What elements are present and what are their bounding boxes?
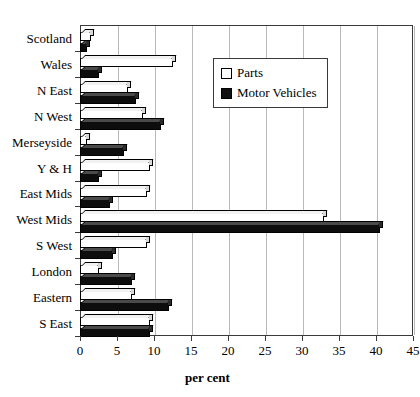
legend-item-parts: Parts [221,65,317,81]
y-axis-category-label: Eastern [0,291,76,304]
chart-legend: Parts Motor Vehicles [213,58,328,108]
x-axis-tick [117,336,118,341]
x-axis-tick [339,336,340,341]
bar-top-face [81,221,383,225]
x-axis-tick [80,336,81,341]
bar-right-face [131,273,135,280]
bar-top-face [81,92,139,96]
x-axis-tick [191,336,192,341]
x-axis-tick [154,336,155,341]
bar-right-face [168,299,172,306]
filled-square-swatch-icon [221,88,232,99]
y-axis-category-label: S West [0,239,76,252]
bar-top-face [81,144,128,148]
bar-top-face [81,288,135,292]
bar [80,302,169,311]
y-axis-category-label: Scotland [0,32,76,45]
bar-right-face [127,81,131,88]
bar-right-face [142,107,146,114]
x-axis-tick-label: 15 [185,343,198,359]
bar [80,147,124,156]
legend-item-motor-vehicles: Motor Vehicles [221,85,317,101]
x-axis-tick [413,336,414,341]
bar-top-face [81,236,150,240]
x-axis-tick-label: 35 [333,343,346,359]
y-axis-category-label: London [0,265,76,278]
bar-top-face [81,107,146,111]
bar-top-face [81,55,176,59]
bar-right-face [379,221,383,228]
bar-right-face [149,314,153,321]
y-axis-category-label: East Mids [0,187,76,200]
bar-right-face [160,118,164,125]
open-square-swatch-icon [221,68,232,79]
bar-right-face [98,66,102,73]
bar-right-face [149,159,153,166]
bar [80,276,132,285]
bar-right-face [86,133,90,140]
bar [80,224,380,233]
bar [80,121,161,130]
bar-top-face [81,185,150,189]
chart-title [0,0,415,1]
x-axis-tick-label: 0 [77,343,84,359]
bar [80,43,87,52]
y-axis-category-label: West Mids [0,213,76,226]
x-axis-tick [376,336,377,341]
bar-top-face [81,118,165,122]
y-axis-labels: ScotlandWalesN EastN WestMerseysideY & H… [0,25,76,336]
x-axis-tick-label: 5 [114,343,121,359]
y-axis-category-label: N West [0,110,76,123]
bar-right-face [135,92,139,99]
bar-right-face [149,325,153,332]
bar-right-face [86,40,90,47]
bar-right-face [112,247,116,254]
x-axis-tick-label: 30 [296,343,309,359]
y-axis-category-label: Y & H [0,162,76,175]
bar-right-face [90,29,94,36]
bar [80,173,99,182]
legend-label-motor-vehicles: Motor Vehicles [237,85,317,101]
bar-top-face [81,314,154,318]
bar-right-face [323,210,327,217]
gridline [414,26,415,335]
bar-right-face [172,55,176,62]
bar-top-face [81,273,135,277]
bar-top-face [81,299,172,303]
bar-top-face [81,81,132,85]
y-axis-category-label: Merseyside [0,136,76,149]
bar-right-face [146,236,150,243]
x-axis-tick [302,336,303,341]
y-axis-category-label: N East [0,84,76,97]
legend-label-parts: Parts [237,65,263,81]
bar-right-face [98,262,102,269]
y-axis-category-label: Wales [0,58,76,71]
x-axis-tick [265,336,266,341]
bar [80,199,110,208]
bar-top-face [81,159,154,163]
y-axis-category-label: S East [0,317,76,330]
bar-right-face [109,196,113,203]
bar [80,95,136,104]
x-axis-ticks: 051015202530354045 [80,336,413,362]
x-axis-title: per cent [0,370,415,386]
x-axis-tick-label: 40 [370,343,383,359]
bar-right-face [146,185,150,192]
bar-right-face [131,288,135,295]
bar-right-face [123,144,127,151]
x-axis-tick-label: 25 [259,343,272,359]
x-axis-tick-label: 10 [148,343,161,359]
x-axis-tick-label: 45 [407,343,420,359]
x-axis-tick-label: 20 [222,343,235,359]
x-axis-tick [228,336,229,341]
bar [80,69,99,78]
bar-right-face [98,170,102,177]
bar-top-face [81,210,328,214]
bar [80,250,113,259]
bar-top-face [81,325,154,329]
